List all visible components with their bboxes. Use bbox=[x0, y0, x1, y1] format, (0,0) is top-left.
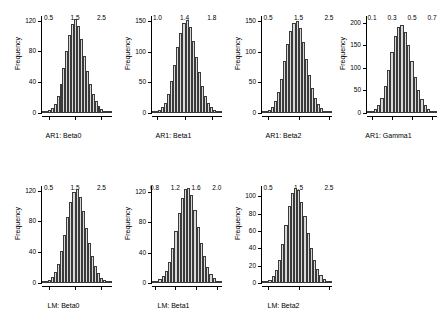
x-tick bbox=[412, 116, 413, 120]
y-tick-label: 40 bbox=[139, 250, 146, 257]
y-tick-label: 0 bbox=[252, 110, 256, 117]
plot-area bbox=[262, 186, 332, 283]
y-tick-label: 100 bbox=[350, 65, 361, 72]
x-tick bbox=[329, 116, 330, 120]
x-axis-label: AR1: Beta2 bbox=[228, 132, 339, 139]
y-tick-label: 80 bbox=[139, 219, 146, 226]
x-axis-label: AR1: Beta1 bbox=[118, 132, 229, 139]
bar-series bbox=[152, 186, 222, 283]
y-tick-label: 200 bbox=[350, 20, 361, 27]
histogram-panel: 04080120Frequency0.51.52.5AR1: Beta0 bbox=[8, 8, 119, 168]
y-tick bbox=[148, 283, 152, 284]
y-tick-label: 80 bbox=[249, 211, 256, 218]
histogram-panel: 020406080100Frequency0.51.52.5LM: Beta2 bbox=[228, 178, 339, 323]
histogram-bar bbox=[219, 281, 222, 283]
x-axis-label: LM: Beta2 bbox=[228, 302, 339, 309]
y-tick bbox=[258, 113, 262, 114]
y-tick-label: 100 bbox=[245, 49, 256, 56]
y-axis-label: Frequency bbox=[14, 9, 21, 99]
x-axis bbox=[152, 286, 222, 287]
y-tick-label: 80 bbox=[29, 48, 36, 55]
plot-area bbox=[152, 186, 222, 283]
x-axis bbox=[367, 116, 437, 117]
x-tick bbox=[75, 116, 76, 120]
x-axis bbox=[262, 286, 332, 287]
y-tick-label: 40 bbox=[249, 245, 256, 252]
x-tick bbox=[75, 286, 76, 290]
y-axis-label: Frequency bbox=[234, 179, 241, 269]
histogram-grid: 04080120Frequency0.51.52.5AR1: Beta00501… bbox=[0, 0, 445, 323]
x-tick bbox=[432, 116, 433, 120]
x-tick bbox=[217, 286, 218, 290]
histogram-bar bbox=[329, 111, 332, 113]
y-tick-label: 100 bbox=[135, 49, 146, 56]
x-tick bbox=[372, 116, 373, 120]
y-tick-label: 20 bbox=[249, 263, 256, 270]
plot-area bbox=[42, 16, 112, 113]
y-axis-label: Frequency bbox=[339, 9, 346, 99]
histogram-bar bbox=[219, 111, 222, 113]
y-tick-label: 0 bbox=[32, 110, 36, 117]
y-tick-label: 0 bbox=[252, 280, 256, 287]
y-tick-label: 40 bbox=[29, 79, 36, 86]
y-tick-label: 50 bbox=[354, 87, 361, 94]
histogram-bar bbox=[109, 111, 112, 113]
y-tick-label: 120 bbox=[25, 18, 36, 25]
x-tick bbox=[392, 116, 393, 120]
x-axis-label: LM: Beta0 bbox=[8, 302, 119, 309]
x-tick bbox=[49, 286, 50, 290]
y-tick-label: 0 bbox=[32, 280, 36, 287]
x-tick bbox=[49, 116, 50, 120]
x-tick bbox=[329, 286, 330, 290]
y-tick-label: 0 bbox=[142, 110, 146, 117]
plot-area bbox=[262, 16, 332, 113]
y-tick-label: 80 bbox=[29, 218, 36, 225]
histogram-panel: 050100150200Frequency0.10.30.50.7AR1: Ga… bbox=[333, 8, 444, 168]
y-tick-label: 150 bbox=[350, 42, 361, 49]
y-tick-label: 0 bbox=[142, 280, 146, 287]
x-tick bbox=[299, 286, 300, 290]
x-tick bbox=[196, 286, 197, 290]
x-tick bbox=[268, 116, 269, 120]
histogram-bar bbox=[109, 281, 112, 283]
histogram-panel: 04080120Frequency0.81.21.62.0LM: Beta1 bbox=[118, 178, 229, 323]
y-tick-label: 100 bbox=[245, 193, 256, 200]
x-tick bbox=[175, 286, 176, 290]
bar-series bbox=[262, 16, 332, 113]
y-tick bbox=[38, 283, 42, 284]
y-tick-label: 50 bbox=[249, 79, 256, 86]
y-axis-label: Frequency bbox=[14, 179, 21, 269]
x-axis-label: LM: Beta1 bbox=[118, 302, 229, 309]
y-tick-label: 120 bbox=[25, 188, 36, 195]
x-axis-label: AR1: Gamma1 bbox=[333, 132, 444, 139]
x-tick bbox=[101, 286, 102, 290]
plot-area bbox=[367, 16, 437, 113]
y-tick bbox=[38, 113, 42, 114]
bar-series bbox=[152, 16, 222, 113]
bar-series bbox=[42, 186, 112, 283]
histogram-bar bbox=[329, 281, 332, 283]
y-tick-label: 40 bbox=[29, 249, 36, 256]
y-tick-label: 150 bbox=[135, 18, 146, 25]
histogram-panel: 04080120Frequency0.51.52.5LM: Beta0 bbox=[8, 178, 119, 323]
x-axis-label: AR1: Beta0 bbox=[8, 132, 119, 139]
x-tick bbox=[157, 116, 158, 120]
bar-series bbox=[262, 186, 332, 283]
histogram-panel: 050100150Frequency1.01.41.8AR1: Beta1 bbox=[118, 8, 229, 168]
y-tick bbox=[258, 283, 262, 284]
plot-area bbox=[42, 186, 112, 283]
bar-series bbox=[367, 16, 437, 113]
x-tick bbox=[299, 116, 300, 120]
y-tick-label: 0 bbox=[357, 110, 361, 117]
y-axis-label: Frequency bbox=[124, 179, 131, 269]
x-tick bbox=[185, 116, 186, 120]
x-tick bbox=[212, 116, 213, 120]
y-axis-label: Frequency bbox=[234, 9, 241, 99]
x-tick bbox=[101, 116, 102, 120]
y-tick bbox=[363, 113, 367, 114]
y-tick-label: 120 bbox=[135, 189, 146, 196]
plot-area bbox=[152, 16, 222, 113]
bar-series bbox=[42, 16, 112, 113]
y-tick bbox=[148, 113, 152, 114]
y-tick-label: 50 bbox=[139, 79, 146, 86]
